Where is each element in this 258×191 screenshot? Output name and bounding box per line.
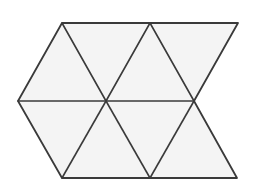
figure-canvas bbox=[0, 0, 258, 191]
triangle-net-diagram bbox=[0, 0, 258, 191]
